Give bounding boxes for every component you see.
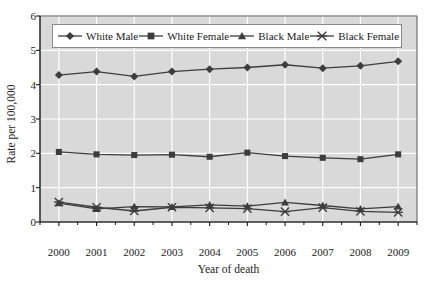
- data-point-square: [94, 151, 100, 157]
- data-point-square: [244, 150, 250, 156]
- data-point-square: [357, 156, 363, 162]
- marker-square: [207, 154, 213, 160]
- marker-square: [357, 156, 363, 162]
- data-point-square: [320, 155, 326, 161]
- marker-diamond: [66, 32, 74, 40]
- marker-square: [244, 150, 250, 156]
- x-axis-tick-label: 2003: [152, 245, 192, 259]
- marker-square: [56, 149, 62, 155]
- legend-marker-square-icon: [138, 29, 164, 43]
- x-axis-tick-label: 2000: [39, 245, 79, 259]
- x-axis-tick-label: 2009: [378, 245, 418, 259]
- chart-figure: Rate per 100,000 6543210 White MaleWhite…: [0, 0, 435, 284]
- marker-square: [169, 152, 175, 158]
- data-point-square: [148, 33, 155, 40]
- data-point-square: [131, 152, 137, 158]
- legend-marker-x-star-icon: [309, 29, 335, 43]
- legend-marker-triangle-icon: [229, 29, 255, 43]
- data-point-square: [169, 152, 175, 158]
- data-point-square: [207, 154, 213, 160]
- legend-entry[interactable]: Black Male: [229, 29, 309, 43]
- legend-marker-diamond-icon: [57, 29, 83, 43]
- marker-square: [131, 152, 137, 158]
- legend-entry[interactable]: White Male: [57, 29, 138, 43]
- x-axis-tick-label: 2004: [190, 245, 230, 259]
- data-point-diamond: [66, 32, 74, 40]
- x-axis-tick-label: 2006: [265, 245, 305, 259]
- legend-label: White Male: [86, 30, 138, 42]
- marker-square: [395, 151, 401, 157]
- legend-label: White Female: [167, 30, 229, 42]
- x-axis-tick-labels: 2000200120022003200420052006200720082009: [40, 245, 417, 259]
- legend-label: Black Female: [338, 30, 399, 42]
- x-axis-tick-label: 2001: [77, 245, 117, 259]
- data-point-square: [282, 153, 288, 159]
- data-point-square: [395, 151, 401, 157]
- marker-square: [148, 33, 155, 40]
- x-axis-tick-label: 2005: [227, 245, 267, 259]
- legend-label: Black Male: [258, 30, 309, 42]
- x-axis-tick-label: 2008: [340, 245, 380, 259]
- data-point-square: [56, 149, 62, 155]
- x-axis-tick-label: 2007: [303, 245, 343, 259]
- marker-square: [320, 155, 326, 161]
- data-point-x-star: [317, 32, 327, 41]
- legend-entry[interactable]: Black Female: [309, 29, 399, 43]
- x-axis-tick-label: 2002: [114, 245, 154, 259]
- chart-legend: White MaleWhite FemaleBlack MaleBlack Fe…: [52, 24, 402, 48]
- x-axis-title: Year of death: [40, 262, 417, 276]
- legend-entry[interactable]: White Female: [138, 29, 229, 43]
- marker-square: [282, 153, 288, 159]
- marker-square: [94, 151, 100, 157]
